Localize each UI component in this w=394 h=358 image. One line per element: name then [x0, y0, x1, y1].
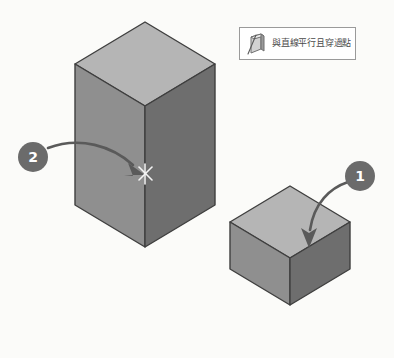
callout-badge-2[interactable]: 2: [18, 142, 48, 172]
parallel-plane-prism-icon: [245, 32, 267, 56]
tool-tooltip-label: 與直線平行且穿過點: [272, 38, 351, 49]
tall-rectangular-prism: [75, 22, 215, 247]
small-cube: [230, 186, 350, 305]
callout-badge-1[interactable]: 1: [345, 161, 375, 191]
illustration-canvas: 與直線平行且穿過點 2 1: [0, 0, 394, 358]
tool-tooltip[interactable]: 與直線平行且穿過點: [239, 27, 356, 60]
